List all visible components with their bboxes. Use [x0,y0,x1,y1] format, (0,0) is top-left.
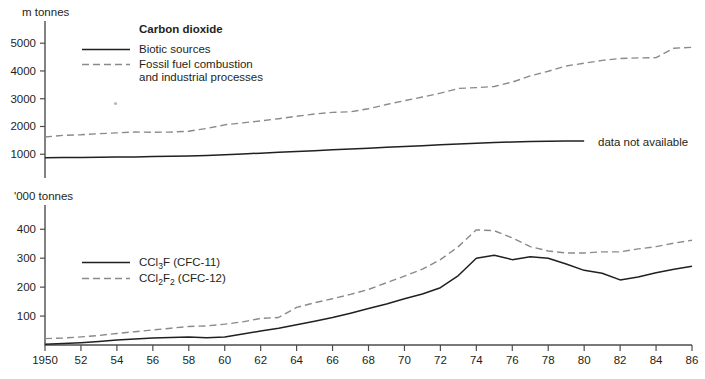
y-tick-label: 200 [17,281,36,293]
x-tick-label: 62 [254,354,267,366]
panel-cfc: '000 tonnes 100200300400 195052545658606… [14,190,698,366]
x-tick-label: 80 [578,354,591,366]
x-tick-label: 54 [110,354,123,366]
top-legend-label-fossil-line2: and industrial processes [139,71,263,83]
x-tick-label: 70 [398,354,411,366]
series-line-1 [45,230,692,339]
y-tick-label: 100 [17,310,36,322]
y-tick-label: 300 [17,252,36,264]
series-line-0 [45,255,692,344]
x-tick-label: 84 [650,354,663,366]
x-tick-label: 72 [434,354,447,366]
x-tick-label: 86 [686,354,699,366]
chart-figure: m tonnes 10002000300040005000 Carbon dio… [0,0,705,379]
x-tick-label: 76 [506,354,519,366]
bottom-y-tick-labels: 100200300400 [17,223,36,322]
top-legend-label-fossil: Fossil fuel combustion [139,58,253,70]
panel-carbon-dioxide: m tonnes 10002000300040005000 Carbon dio… [10,6,692,178]
top-legend-title: Carbon dioxide [139,23,223,35]
top-y-tick-labels: 10002000300040005000 [10,37,36,160]
x-axis-tick-labels: 1950525456586062646668707274767880828486 [32,354,698,366]
y-tick-label: 400 [17,223,36,235]
dual-line-chart: m tonnes 10002000300040005000 Carbon dio… [0,0,705,379]
top-legend-label-biotic: Biotic sources [139,43,211,55]
x-tick-label: 66 [326,354,339,366]
series-line-0 [45,141,584,158]
stray-dot-artifact [114,102,117,105]
top-unit-label: m tonnes [22,6,70,18]
x-tick-label: 1950 [32,354,58,366]
x-tick-label: 64 [290,354,303,366]
bottom-legend-label-cfc11: CCl3F (CFC-11) [139,256,220,271]
top-y-ticks [40,43,45,154]
bottom-y-ticks [40,229,45,316]
bottom-series-group [45,230,692,344]
x-tick-label: 78 [542,354,555,366]
x-tick-label: 56 [146,354,159,366]
x-tick-label: 60 [218,354,231,366]
y-tick-label: 3000 [10,93,36,105]
y-tick-label: 2000 [10,120,36,132]
x-tick-label: 68 [362,354,375,366]
bottom-unit-label: '000 tonnes [14,190,73,202]
x-tick-label: 52 [75,354,88,366]
bottom-axis: 100200300400 195052545658606264666870727… [17,205,699,366]
x-axis-ticks [45,345,692,351]
y-tick-label: 1000 [10,148,36,160]
bottom-legend: CCl3F (CFC-11) CCl2F2 (CFC-12) [82,256,226,287]
data-not-available-note: data not available [598,136,688,148]
top-legend: Carbon dioxide Biotic sources Fossil fue… [82,23,263,83]
y-tick-label: 5000 [10,37,36,49]
bottom-legend-label-cfc12: CCl2F2 (CFC-12) [139,272,226,287]
top-axis: 10002000300040005000 [10,21,45,178]
y-tick-label: 4000 [10,65,36,77]
x-tick-label: 82 [614,354,627,366]
x-tick-label: 74 [470,354,483,366]
x-tick-label: 58 [182,354,195,366]
